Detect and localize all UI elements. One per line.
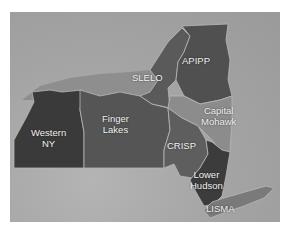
- label-finger-lakes: Finger Lakes: [102, 113, 129, 135]
- label-capital-mohawk: Capital Mohawk: [201, 105, 236, 127]
- label-finger-lakes-line1: Finger: [102, 113, 129, 124]
- map-svg: [10, 12, 280, 222]
- label-capital-mohawk-line2: Mohawk: [201, 116, 236, 127]
- label-lisma: LISMA: [206, 203, 235, 214]
- label-crisp: CRISP: [167, 140, 196, 151]
- label-finger-lakes-line2: Lakes: [102, 124, 129, 135]
- label-western-ny: Western NY: [31, 127, 66, 149]
- label-western-ny-line1: Western: [31, 127, 66, 138]
- label-apipp-text: APIPP: [182, 55, 210, 66]
- label-lisma-text: LISMA: [206, 203, 235, 214]
- label-slelo-text: SLELO: [132, 72, 163, 83]
- label-apipp: APIPP: [182, 55, 210, 66]
- label-crisp-text: CRISP: [167, 140, 196, 151]
- label-western-ny-line2: NY: [31, 138, 66, 149]
- label-lower-hudson: Lower Hudson: [190, 169, 223, 191]
- label-slelo: SLELO: [132, 72, 163, 83]
- ny-prism-map: Western NY Finger Lakes SLELO APIPP Capi…: [10, 12, 280, 222]
- label-lower-hudson-line2: Hudson: [190, 180, 223, 191]
- label-lower-hudson-line1: Lower: [190, 169, 223, 180]
- label-capital-mohawk-line1: Capital: [201, 105, 236, 116]
